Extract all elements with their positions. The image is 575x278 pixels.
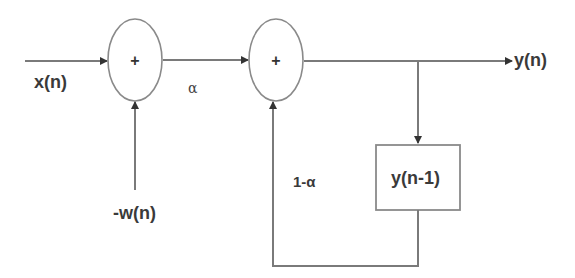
forward-gain-label: α (188, 81, 197, 95)
block-diagram: + + (0, 0, 575, 278)
sum2-plus-symbol: + (271, 52, 280, 69)
output-label: y(n) (514, 51, 547, 69)
delay-label: y(n-1) (391, 169, 440, 187)
negative-input-label: -w(n) (113, 204, 156, 222)
input-label: x(n) (34, 73, 67, 91)
sum1-plus-symbol: + (130, 52, 139, 69)
feedback-gain-label: 1-α (293, 174, 316, 189)
